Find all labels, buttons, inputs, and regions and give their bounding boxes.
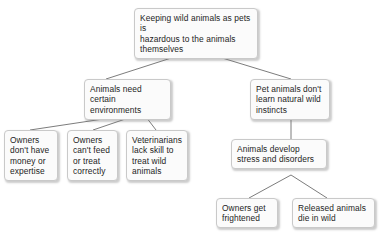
- node-animals-develop-stress[interactable]: Animals develop stress and disorders: [231, 139, 327, 169]
- concept-map-canvas: Keeping wild animals as pets is hazardou…: [0, 0, 386, 248]
- node-root-claim[interactable]: Keeping wild animals as pets is hazardou…: [134, 8, 258, 59]
- node-released-animals-die[interactable]: Released animals die in wild: [292, 198, 375, 228]
- node-owners-cant-feed[interactable]: Owners can't feed or treat correctly: [67, 130, 118, 181]
- edge-stress-to-released: [291, 175, 327, 198]
- node-pet-animals-instincts[interactable]: Pet animals don't learn natural wild ins…: [250, 79, 330, 120]
- node-owners-money-expertise[interactable]: Owners don't have money or expertise: [4, 130, 58, 181]
- node-animals-need-environments[interactable]: Animals need certain environments: [84, 79, 171, 120]
- node-owners-get-frightened[interactable]: Owners get frightened: [216, 198, 278, 228]
- node-veterinarians-lack-skill[interactable]: Veterinarians lack skill to treat wild a…: [126, 130, 188, 181]
- edge-stress-to-frightened: [249, 175, 291, 198]
